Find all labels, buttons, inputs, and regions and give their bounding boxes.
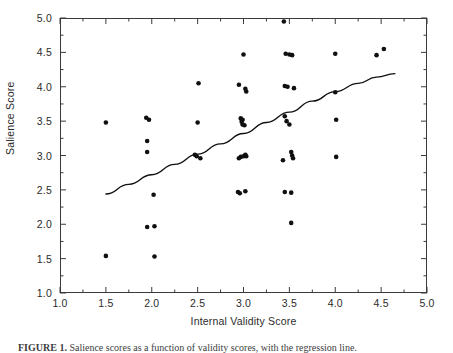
x-tick-label: 3.5	[282, 297, 297, 309]
data-point	[198, 156, 203, 161]
x-tick-label: 5.0	[419, 297, 434, 309]
caption-text: Salience scores as a function of validit…	[69, 342, 356, 353]
data-point	[382, 47, 387, 52]
data-point	[151, 192, 156, 197]
data-point	[289, 190, 294, 195]
data-point	[147, 117, 152, 122]
data-point	[152, 224, 157, 229]
data-point	[334, 155, 339, 160]
caption-label: FIGURE 1.	[18, 342, 67, 353]
data-point	[374, 53, 379, 58]
data-point	[291, 156, 296, 161]
regression-line	[106, 74, 395, 194]
x-tick-label: 2.5	[190, 297, 205, 309]
data-point	[241, 52, 246, 57]
y-tick-label: 2.0	[22, 218, 52, 230]
data-point	[289, 221, 294, 226]
scatter-plot	[60, 18, 427, 293]
data-point	[238, 191, 243, 196]
data-point	[285, 84, 290, 89]
y-tick-label: 3.5	[22, 115, 52, 127]
data-point	[145, 139, 150, 144]
data-point	[282, 190, 287, 195]
data-point	[237, 82, 242, 87]
data-point	[237, 156, 242, 161]
data-point	[282, 19, 287, 24]
data-point	[104, 120, 109, 125]
data-point	[242, 123, 247, 128]
data-point	[244, 89, 249, 94]
data-point	[334, 117, 339, 122]
y-tick-label: 1.5	[22, 253, 52, 265]
y-tick-label: 2.5	[22, 184, 52, 196]
data-point	[145, 225, 150, 230]
x-tick-label: 2.0	[144, 297, 159, 309]
data-point	[290, 53, 295, 58]
x-axis-title: Internal Validity Score	[60, 315, 427, 327]
x-tick-label: 1.0	[52, 297, 67, 309]
data-point	[292, 86, 297, 91]
y-tick-label: 4.5	[22, 46, 52, 58]
x-tick-label: 3.0	[236, 297, 251, 309]
data-point	[196, 81, 201, 86]
x-tick-label: 1.5	[98, 297, 113, 309]
y-tick-label: 4.0	[22, 81, 52, 93]
y-axis-title: Salience Score	[4, 82, 16, 155]
data-point	[282, 114, 287, 119]
data-point	[145, 150, 150, 155]
data-points	[104, 19, 387, 259]
data-point	[333, 51, 338, 56]
plot-canvas	[60, 18, 427, 293]
y-tick-label: 5.0	[22, 12, 52, 24]
data-point	[195, 120, 200, 125]
data-point	[243, 189, 248, 194]
x-tick-label: 4.5	[374, 297, 389, 309]
y-tick-label: 3.0	[22, 150, 52, 162]
data-point	[241, 154, 246, 159]
data-point	[333, 90, 338, 95]
data-point	[287, 122, 292, 127]
figure-caption: FIGURE 1. Salience scores as a function …	[18, 342, 438, 353]
data-point	[152, 254, 157, 259]
x-tick-label: 4.0	[328, 297, 343, 309]
data-point	[281, 158, 286, 163]
y-tick-label: 1.0	[22, 287, 52, 299]
data-point	[104, 254, 109, 259]
